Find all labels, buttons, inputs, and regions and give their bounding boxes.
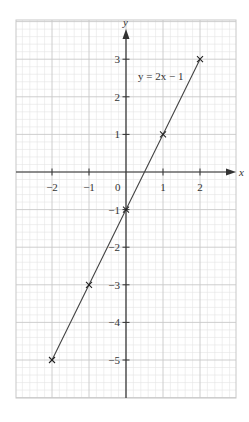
x-tick-label: −1	[83, 181, 95, 193]
line-graph: x y −2−112 −5−4−3−2−1123 0 y = 2x − 1	[0, 0, 249, 422]
x-tick-label: 2	[197, 181, 203, 193]
y-tick-label: −5	[108, 354, 120, 366]
y-tick-label: 3	[115, 53, 121, 65]
origin-label: 0	[115, 181, 121, 193]
y-tick-label: 2	[115, 91, 121, 103]
y-tick-label: −4	[108, 316, 120, 328]
y-tick-label: −1	[108, 204, 120, 216]
equation-label: y = 2x − 1	[138, 70, 183, 82]
x-tick-label: 1	[160, 181, 166, 193]
y-tick-label: 1	[115, 128, 121, 140]
x-tick-label: −2	[46, 181, 58, 193]
x-axis-label: x	[238, 166, 244, 178]
y-tick-label: −3	[108, 279, 120, 291]
y-axis-label: y	[122, 16, 128, 28]
